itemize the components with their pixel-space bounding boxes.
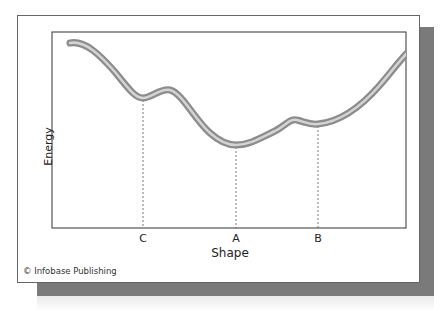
energy-landscape-chart (0, 0, 443, 311)
copyright-credit: © Infobase Publishing (23, 266, 117, 276)
x-tick-b: B (311, 232, 325, 245)
x-tick-c: C (136, 232, 150, 245)
x-tick-a: A (229, 232, 243, 245)
x-axis-label: Shape (200, 246, 260, 260)
y-axis-label: Energy (42, 117, 55, 177)
